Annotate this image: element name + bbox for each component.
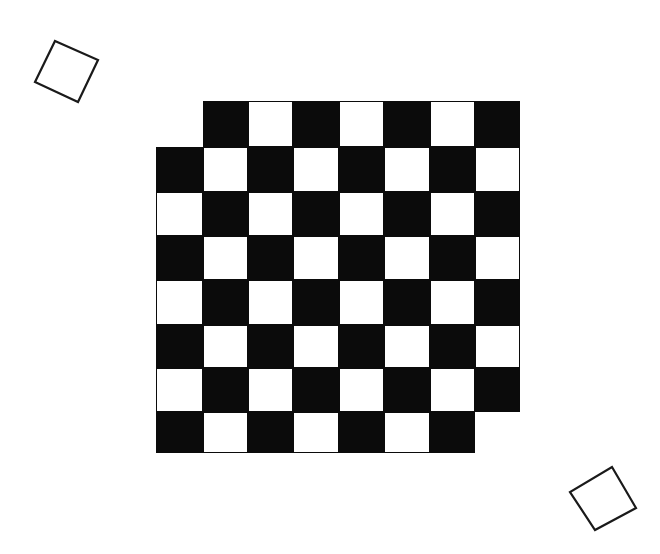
rotated-square-bottom-right bbox=[570, 467, 636, 530]
checkerboard-figure bbox=[0, 0, 660, 554]
rotated-square-top-left bbox=[35, 41, 98, 102]
outline-squares bbox=[0, 0, 660, 554]
